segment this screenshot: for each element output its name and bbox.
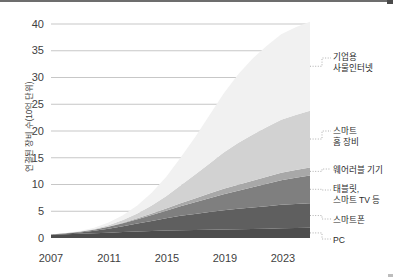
stacked-areas-group <box>51 22 310 238</box>
legend-label-pc: PC <box>333 235 345 246</box>
legend-label-enterprise-iot-line2: 사물인터넷 <box>333 63 373 74</box>
chart-figure: 연결된 장비 수(10억 단위) 40 35 30 25 20 15 10 5 … <box>0 0 393 277</box>
leader-line-태블릿, 스마트 TV 등 <box>310 189 331 190</box>
legend-label-tablet-smarttv-line1: 태블릿, <box>333 184 359 195</box>
legend-label-smartphone: 스마트폰 <box>333 215 365 226</box>
legend-label-smart-home-line2: 홈 장비 <box>333 137 359 148</box>
legend-label-wearables: 웨어러블 기기 <box>333 165 383 176</box>
leader-line-스마트 홈 장비 <box>310 131 331 139</box>
legend-label-enterprise-iot-line1: 기업용 <box>333 52 357 63</box>
legend-label-smart-home-line1: 스마트 <box>333 126 357 137</box>
leader-line-기업용 사물인터넷 <box>310 58 331 66</box>
legend-leader-lines-group <box>310 58 331 239</box>
leader-line-스마트폰 <box>310 216 331 219</box>
leader-line-웨어러블 기기 <box>310 169 331 171</box>
leader-line-PC <box>310 233 331 239</box>
legend-label-tablet-smarttv-line2: 스마트 TV 등 <box>333 195 380 206</box>
